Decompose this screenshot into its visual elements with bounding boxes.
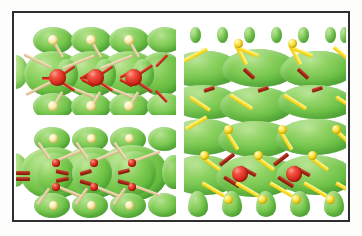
ligand-atom: [278, 125, 287, 134]
ligand-atom: [200, 151, 209, 160]
ligand-atom: [49, 134, 58, 143]
isosurface-lobe: [147, 27, 176, 53]
ligand-atom: [308, 151, 317, 160]
metal-atom: [49, 69, 66, 86]
ligand-atom: [125, 201, 134, 210]
isosurface-lobe: [298, 27, 309, 43]
panel-right-bulk-network: [184, 15, 346, 218]
isosurface-lobe: [340, 27, 346, 43]
isosurface-lobe: [190, 27, 201, 43]
ligand-atom: [292, 195, 301, 204]
panel-top-left-chain: [16, 15, 176, 115]
metal-atom: [128, 159, 136, 167]
ligand-atom: [224, 195, 233, 204]
figure-root: Charge density isosurface of layered cry…: [0, 0, 362, 236]
ligand-atom: [87, 134, 96, 143]
isosurface-slab: [280, 51, 346, 87]
ligand-atom: [48, 101, 58, 111]
isosurface-lobe: [271, 27, 282, 43]
figure-canvas: [14, 13, 348, 220]
ligand-atom: [125, 134, 134, 143]
ligand-atom: [124, 35, 134, 45]
metal-atom: [90, 183, 98, 191]
ligand-atom: [49, 201, 58, 210]
isosurface-lobe: [244, 27, 255, 43]
ligand-atom: [288, 39, 297, 48]
ligand-atom: [86, 35, 96, 45]
ligand-atom: [48, 35, 58, 45]
figure-frame: [12, 11, 350, 222]
bond-stub: [16, 177, 30, 181]
ligand-atom: [332, 125, 341, 134]
ligand-atom: [254, 151, 263, 160]
metal-atom: [125, 69, 142, 86]
ligand-atom: [124, 101, 134, 111]
metal-atom: [232, 166, 248, 182]
ligand-atom: [224, 125, 233, 134]
metal-atom: [286, 166, 302, 182]
metal-atom: [90, 159, 98, 167]
isosurface-lobe: [148, 193, 176, 217]
ligand-atom: [258, 195, 267, 204]
ligand-atom: [86, 101, 96, 111]
ligand-atom: [234, 39, 243, 48]
isosurface-lobe: [217, 27, 228, 43]
bond-stub: [16, 171, 30, 175]
ligand-atom: [326, 195, 335, 204]
panel-bottom-left-chain: [16, 119, 176, 218]
isosurface-lobe: [148, 127, 176, 151]
metal-atom: [87, 69, 104, 86]
ligand-atom: [87, 201, 96, 210]
metal-atom: [128, 183, 136, 191]
metal-atom: [52, 159, 60, 167]
metal-atom: [52, 183, 60, 191]
isosurface-lobe: [325, 27, 336, 43]
